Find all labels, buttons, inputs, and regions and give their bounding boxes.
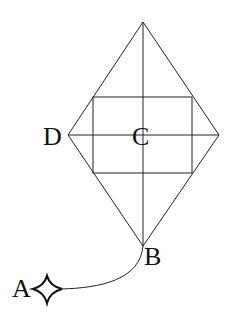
label-C: C xyxy=(132,122,149,151)
label-A: A xyxy=(12,274,31,303)
kite-diagram: D C B A xyxy=(0,0,233,314)
label-B: B xyxy=(144,242,161,271)
four-point-star-icon xyxy=(33,276,62,303)
label-D: D xyxy=(43,122,62,151)
kite-drawing: D C B A xyxy=(0,0,233,314)
kite-string xyxy=(61,246,143,289)
